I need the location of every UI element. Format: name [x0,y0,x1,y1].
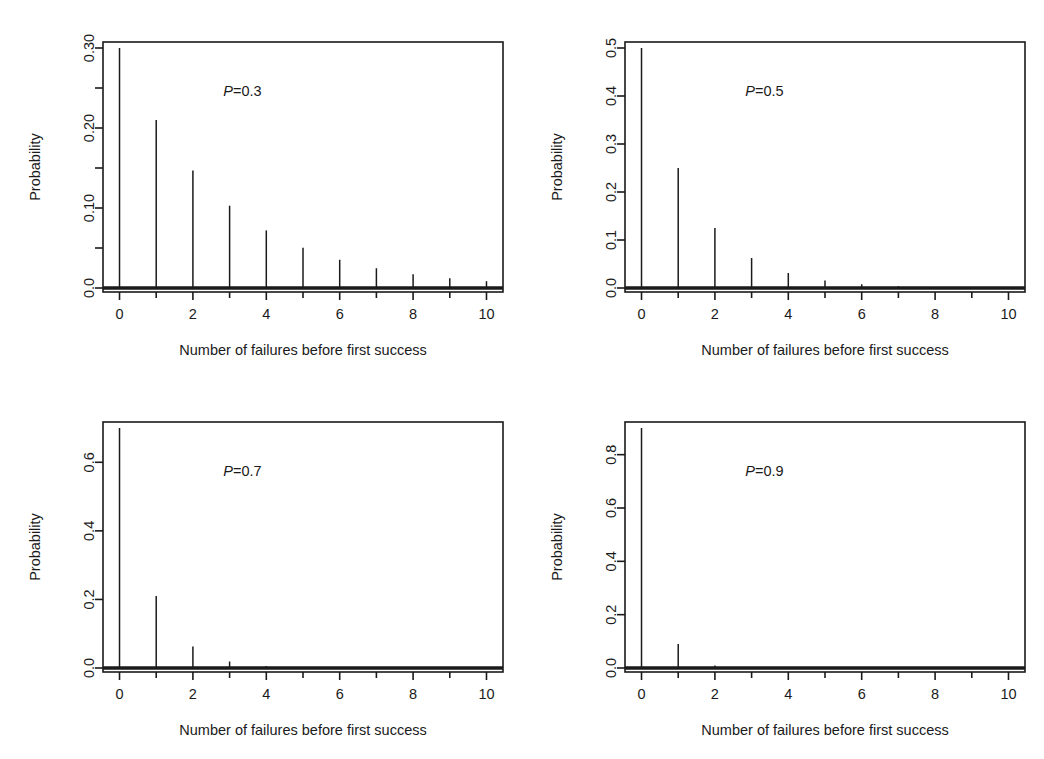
panel-p07-xlabel: Number of failures before first success [179,722,426,738]
panel-p03: 0.00.100.200.300246810ProbabilityNumber … [0,0,522,379]
panel-p05-plot-area: 0.00.10.20.30.40.50246810ProbabilityNumb… [549,38,1025,358]
panel-p09-xtick-label: 2 [711,686,719,702]
panel-p07-xtick-label: 8 [409,686,417,702]
panel-p09-svg: 0.00.20.40.60.80246810ProbabilityNumber … [522,380,1044,759]
panel-p09-frame [625,422,1025,672]
panel-p09-annotation: P=0.9 [745,463,783,479]
panel-p05-ytick-label: 0.0 [603,278,619,298]
panel-p03-ytick-label: 0.0 [81,278,97,298]
panel-p09-ytick-label: 0.6 [603,498,619,518]
panel-p03-ytick-label: 0.20 [81,114,97,142]
panel-p03-xtick-label: 8 [409,306,417,322]
panel-p05-xtick-label: 6 [858,306,866,322]
panel-p09-xtick-label: 8 [931,686,939,702]
panel-p03-plot-area: 0.00.100.200.300246810ProbabilityNumber … [27,34,503,358]
panel-p07-ytick-label: 0.4 [81,521,97,541]
panel-p05-xtick-label: 2 [711,306,719,322]
panel-p03-ylabel: Probability [27,132,43,200]
panel-p09-annotation-symbol: P [745,463,755,479]
panel-p03-xtick-label: 0 [115,306,123,322]
panel-p05: 0.00.10.20.30.40.50246810ProbabilityNumb… [522,0,1044,379]
panel-p09: 0.00.20.40.60.80246810ProbabilityNumber … [522,380,1044,759]
panel-p03-annotation-symbol: P [223,83,233,99]
panel-p07-svg: 0.00.20.40.60246810ProbabilityNumber of … [0,380,522,759]
panel-p03-svg: 0.00.100.200.300246810ProbabilityNumber … [0,0,522,379]
panel-p05-xtick-label: 10 [1000,306,1016,322]
panel-p07-xtick-label: 6 [336,686,344,702]
panel-p05-xtick-label: 4 [784,306,792,322]
panel-p07-xtick-label: 2 [189,686,197,702]
panel-p05-annotation-value: =0.5 [755,83,784,99]
panel-p05-ytick-label: 0.3 [603,134,619,154]
panel-p07-annotation: P=0.7 [223,463,261,479]
panel-p09-ytick-label: 0.4 [603,551,619,571]
panel-p05-ytick-label: 0.1 [603,230,619,250]
panel-p09-xlabel: Number of failures before first success [701,722,948,738]
panel-p03-xlabel: Number of failures before first success [179,342,426,358]
panel-p07-ytick-label: 0.6 [81,452,97,472]
panel-p07-xtick-label: 0 [115,686,123,702]
panel-p09-plot-area: 0.00.20.40.60.80246810ProbabilityNumber … [549,422,1025,738]
panel-p09-xtick-label: 0 [637,686,645,702]
panel-p09-ytick-label: 0.2 [603,605,619,625]
panel-p07-frame [103,422,503,672]
panel-p05-xtick-label: 0 [637,306,645,322]
panel-p03-xtick-label: 2 [189,306,197,322]
panel-p07-ytick-label: 0.0 [81,658,97,678]
panel-p05-ytick-label: 0.2 [603,182,619,202]
panel-p09-xtick-label: 4 [784,686,792,702]
panel-p03-xtick-label: 10 [478,306,494,322]
panel-p05-frame [625,42,1025,292]
panel-p03-annotation: P=0.3 [223,83,261,99]
panel-p03-xtick-label: 4 [262,306,270,322]
panel-p07-ylabel: Probability [27,512,43,580]
panel-p05-svg: 0.00.10.20.30.40.50246810ProbabilityNumb… [522,0,1044,379]
panel-p09-ytick-label: 0.0 [603,658,619,678]
panel-p09-xtick-label: 6 [858,686,866,702]
panel-p05-annotation: P=0.5 [745,83,783,99]
panel-p09-ylabel: Probability [549,512,565,580]
panel-p03-ytick-label: 0.10 [81,194,97,222]
panel-p05-annotation-symbol: P [745,83,755,99]
panel-p03-xtick-label: 6 [336,306,344,322]
panel-p07-xtick-label: 10 [478,686,494,702]
panel-p07-annotation-value: =0.7 [233,463,262,479]
panel-p05-ytick-label: 0.5 [603,38,619,58]
panel-p09-xtick-label: 10 [1000,686,1016,702]
figure-canvas: 0.00.100.200.300246810ProbabilityNumber … [0,0,1044,759]
panel-p09-annotation-value: =0.9 [755,463,784,479]
panel-p07-ytick-label: 0.2 [81,589,97,609]
panel-p07-plot-area: 0.00.20.40.60246810ProbabilityNumber of … [27,422,503,738]
panel-p07-xtick-label: 4 [262,686,270,702]
panel-p09-ytick-label: 0.8 [603,445,619,465]
panel-p03-annotation-value: =0.3 [233,83,262,99]
panel-p07-annotation-symbol: P [223,463,233,479]
panel-p03-ytick-label: 0.30 [81,34,97,62]
panel-p05-ytick-label: 0.4 [603,86,619,106]
panel-p05-ylabel: Probability [549,132,565,200]
panel-p07: 0.00.20.40.60246810ProbabilityNumber of … [0,380,522,759]
panel-p05-xlabel: Number of failures before first success [701,342,948,358]
panel-p05-xtick-label: 8 [931,306,939,322]
